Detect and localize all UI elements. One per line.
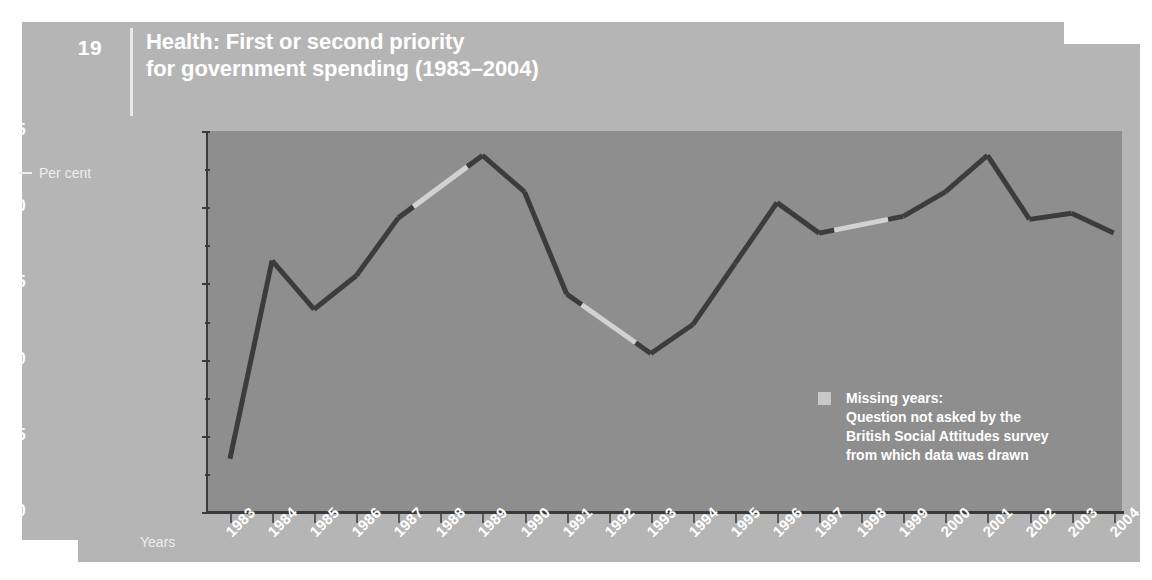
y-axis-minor-tick [205,322,210,324]
legend-line-2: Question not asked by the [846,408,1088,427]
data-segment [1030,213,1072,219]
y-axis-label-85: 85 [0,121,26,139]
data-segment [398,207,413,218]
data-segment [525,192,567,294]
chart-title-line-1: Health: First or second priority [146,28,706,55]
y-axis-label-75: 75 [0,273,26,291]
data-segment [467,155,482,166]
data-segment [945,155,987,192]
y-axis-tick-65 [202,436,210,438]
data-segment [735,203,777,264]
chart-title: Health: First or second priority for gov… [146,28,706,82]
y-axis-minor-tick [205,474,210,476]
missing-data-segment [834,219,888,230]
x-axis-caption: Years [140,534,175,550]
data-segment [903,192,945,216]
data-segment [567,294,582,305]
y-axis-tick-60 [202,512,210,514]
data-segment [314,276,356,310]
y-axis-label-65: 65 [0,426,26,444]
y-axis-label-70: 70 [0,350,26,368]
data-segment [272,261,314,310]
y-axis-label-80: 80 [0,197,26,215]
y-axis-tick-75 [202,283,210,285]
legend: Missing years: Question not asked by the… [818,389,1088,465]
y-axis-tick-80 [202,207,210,209]
y-axis-caption-label: Per cent [39,165,91,181]
title-divider [130,28,133,116]
data-segment [987,155,1029,219]
y-axis-tick-85 [202,131,210,133]
legend-missing-swatch-icon [818,392,831,405]
data-segment [356,218,398,276]
data-segment [636,343,651,354]
data-segment [482,155,524,192]
legend-line-1: Missing years: [846,389,1088,408]
legend-line-4: from which data was drawn [846,446,1088,465]
y-axis-minor-tick [205,398,210,400]
chart-title-line-2: for government spending (1983–2004) [146,55,706,82]
data-segment [777,203,819,233]
missing-data-segment [413,167,467,207]
legend-line-3: British Social Attitudes survey [846,427,1088,446]
data-segment [693,264,735,325]
figure-number: 19 [60,36,120,60]
y-axis-minor-tick [205,245,210,247]
y-axis-minor-tick [205,169,210,171]
y-axis-caption-dash-icon [18,172,32,174]
data-segment [1072,213,1114,233]
data-segment [819,230,834,233]
data-segment [888,216,903,219]
y-axis-tick-70 [202,360,210,362]
missing-data-segment [582,305,636,343]
data-segment [230,261,272,459]
y-axis-label-60: 60 [0,502,26,520]
y-axis-caption: Per cent [18,165,91,181]
data-segment [651,325,693,354]
